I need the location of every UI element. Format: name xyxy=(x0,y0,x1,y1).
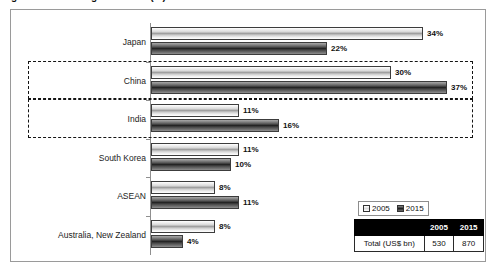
axis-tick xyxy=(146,177,150,178)
bar-value-label: 16% xyxy=(283,119,299,132)
bar-2005-china[interactable] xyxy=(151,66,391,79)
category-label: South Korea xyxy=(99,153,146,163)
bar-value-label: 37% xyxy=(451,81,467,94)
totals-table-corner-cell xyxy=(355,220,425,236)
totals-table-col-2005: 2005 xyxy=(424,220,454,236)
totals-table-body: Total (US$ bn) 530 870 xyxy=(355,236,484,252)
legend-label-2005: 2005 xyxy=(372,204,390,213)
bar-group-china: China30%37% xyxy=(11,62,487,100)
totals-table-header-row: 2005 2015 xyxy=(355,220,484,236)
table-row: Total (US$ bn) 530 870 xyxy=(355,236,484,252)
category-label: India xyxy=(128,114,146,124)
legend-swatch-2005-icon xyxy=(363,205,370,212)
bar-2015-china[interactable] xyxy=(151,81,447,94)
axis-tick xyxy=(146,100,150,101)
totals-table-col-2015: 2015 xyxy=(454,220,484,236)
plot-area: Japan34%22%China30%37%India11%16%South K… xyxy=(11,10,487,263)
bar-group-south-korea: South Korea11%10% xyxy=(11,139,487,177)
bar-value-label: 4% xyxy=(187,235,199,248)
category-label: Australia, New Zealand xyxy=(58,230,146,240)
bar-2005-india[interactable] xyxy=(151,104,239,117)
bar-2005-australia-new-zealand[interactable] xyxy=(151,220,215,233)
figure-title-strip: Figure: Share of regional trade (%) xyxy=(0,0,497,8)
bar-2015-asean[interactable] xyxy=(151,196,239,209)
bar-group-japan: Japan34%22% xyxy=(11,23,487,61)
bar-value-label: 10% xyxy=(235,158,251,171)
bar-value-label: 11% xyxy=(243,104,259,117)
bar-value-label: 11% xyxy=(243,196,259,209)
axis-tick xyxy=(146,139,150,140)
category-label: China xyxy=(124,76,146,86)
bar-value-label: 8% xyxy=(219,220,231,233)
bar-value-label: 34% xyxy=(427,27,443,40)
bar-2005-asean[interactable] xyxy=(151,181,215,194)
bar-value-label: 30% xyxy=(395,66,411,79)
legend-label-2015: 2015 xyxy=(406,204,424,213)
chart-legend[interactable]: 2005 2015 xyxy=(358,201,429,216)
category-label: Japan xyxy=(123,37,146,47)
bar-2015-japan[interactable] xyxy=(151,42,327,55)
chart-frame: Japan34%22%China30%37%India11%16%South K… xyxy=(10,9,486,262)
legend-item-2005[interactable]: 2005 xyxy=(363,204,390,213)
category-label: ASEAN xyxy=(117,191,146,201)
bar-2005-japan[interactable] xyxy=(151,27,423,40)
totals-table: 2005 2015 Total (US$ bn) 530 870 xyxy=(354,219,484,252)
bar-2015-south-korea[interactable] xyxy=(151,158,231,171)
figure-title: Figure: Share of regional trade (%) xyxy=(2,0,166,2)
legend-swatch-2015-icon xyxy=(397,205,404,212)
axis-tick xyxy=(146,216,150,217)
bar-2015-india[interactable] xyxy=(151,119,279,132)
axis-tick xyxy=(146,62,150,63)
bar-group-india: India11%16% xyxy=(11,100,487,138)
totals-table-head: 2005 2015 xyxy=(355,220,484,236)
totals-table-row-label: Total (US$ bn) xyxy=(355,236,425,252)
totals-table-value-2015: 870 xyxy=(454,236,484,252)
bar-2015-australia-new-zealand[interactable] xyxy=(151,235,183,248)
bar-2005-south-korea[interactable] xyxy=(151,143,239,156)
bar-value-label: 22% xyxy=(331,42,347,55)
bar-value-label: 11% xyxy=(243,143,259,156)
totals-table-value-2005: 530 xyxy=(424,236,454,252)
bar-value-label: 8% xyxy=(219,181,231,194)
legend-item-2015[interactable]: 2015 xyxy=(397,204,424,213)
